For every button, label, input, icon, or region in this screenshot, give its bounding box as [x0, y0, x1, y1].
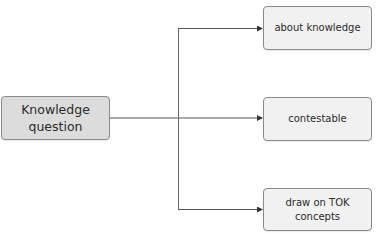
target-label-line1: draw on TOK	[285, 196, 349, 210]
target-label-line2: concepts	[285, 210, 349, 224]
knowledge-question-box: Knowledge question	[1, 96, 110, 140]
about-knowledge-box: about knowledge	[263, 6, 372, 50]
contestable-box: contestable	[263, 97, 372, 141]
source-label-line1: Knowledge	[21, 101, 90, 118]
target-label: about knowledge	[274, 21, 360, 35]
draw-on-tok-concepts-box: draw on TOK concepts	[263, 188, 372, 231]
target-label: contestable	[288, 112, 347, 126]
source-label-line2: question	[21, 118, 90, 135]
